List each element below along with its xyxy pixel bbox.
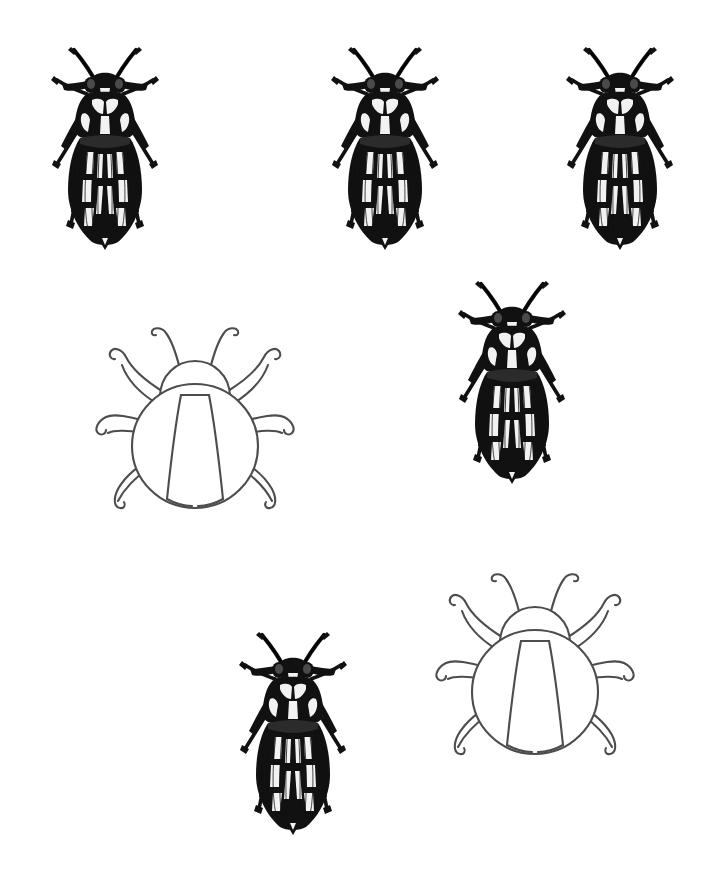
beetle-engraving-svg <box>30 28 180 253</box>
beetle-engraving-svg <box>545 28 695 253</box>
outline-beetle-2 <box>424 549 646 771</box>
engraved-beetle-2 <box>310 28 460 253</box>
beetle-outline-svg <box>424 549 646 771</box>
beetle-engraving-svg <box>310 28 460 253</box>
outline-beetle-1 <box>84 303 306 525</box>
engraved-beetle-4 <box>437 262 587 487</box>
engraved-beetle-1 <box>30 28 180 253</box>
beetle-outline-svg <box>84 303 306 525</box>
engraved-beetle-5 <box>218 613 368 838</box>
beetle-engraving-svg <box>218 613 368 838</box>
beetle-engraving-svg <box>437 262 587 487</box>
engraved-beetle-3 <box>545 28 695 253</box>
illustration-sheet <box>0 0 702 877</box>
